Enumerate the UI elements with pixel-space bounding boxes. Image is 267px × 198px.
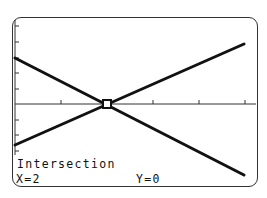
y-axis-ticks bbox=[15, 26, 19, 151]
mode-label: Intersection bbox=[17, 158, 116, 170]
increasing-line bbox=[15, 44, 244, 145]
intersection-cursor bbox=[103, 100, 111, 108]
x-axis-ticks bbox=[61, 100, 245, 104]
y-readout: Y=0 bbox=[136, 173, 161, 185]
x-readout: X=2 bbox=[16, 173, 41, 185]
